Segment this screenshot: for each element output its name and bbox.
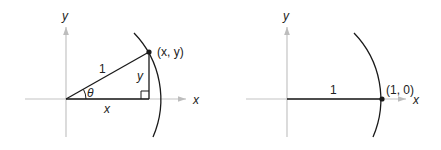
- radius-label: 1: [330, 83, 337, 97]
- hypotenuse-label: 1: [99, 62, 106, 76]
- adjacent-label: x: [103, 102, 111, 116]
- point-1-0-label: (1, 0): [386, 83, 414, 97]
- right-angle-marker: [141, 91, 149, 99]
- right-figure: y x 1 (1, 0): [246, 9, 420, 137]
- point-xy: [146, 49, 151, 54]
- left-y-axis-label: y: [61, 9, 69, 23]
- unit-circle-diagrams: y x 1 y x θ (x, y) y x 1 (1, 0): [0, 0, 441, 150]
- right-unit-arc: [354, 33, 381, 137]
- point-xy-label: (x, y): [157, 45, 184, 59]
- angle-arc: [84, 90, 87, 100]
- opposite-label: y: [136, 69, 144, 83]
- point-1-0: [379, 96, 384, 101]
- right-y-axis-label: y: [282, 9, 290, 23]
- left-x-axis-label: x: [192, 93, 200, 107]
- left-figure: y x 1 y x θ (x, y): [25, 9, 200, 137]
- angle-label: θ: [87, 86, 94, 100]
